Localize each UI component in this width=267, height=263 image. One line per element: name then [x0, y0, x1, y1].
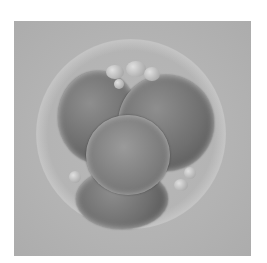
fragment [69, 171, 81, 183]
fragment [144, 67, 160, 81]
fragment [114, 79, 124, 89]
fragment [106, 65, 124, 79]
fragment [126, 61, 146, 77]
microscopy-image [14, 21, 251, 256]
fragment [184, 167, 196, 179]
blastomere [86, 115, 170, 195]
fragment [174, 179, 188, 191]
